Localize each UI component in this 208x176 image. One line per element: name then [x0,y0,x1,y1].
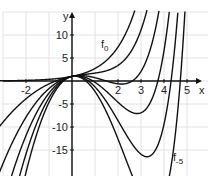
grid [3,12,208,176]
x-axis-label: x [199,84,205,96]
function-plot: -22345105-5-10-15 x y f0 f-5 [0,0,208,176]
curve-label-f0: f0 [101,38,109,53]
x-tick-label: 3 [138,84,144,96]
y-axis-label: y [63,10,69,22]
y-tick-label: -10 [52,121,68,133]
y-tick-label: 10 [56,29,68,41]
curve-f-1 [0,10,147,128]
x-tick-label: 4 [161,84,167,96]
curve-label-f-5: f-5 [173,151,184,166]
curve-f-3 [10,12,169,176]
x-tick-label: -2 [21,84,31,96]
y-tick-label: -5 [58,98,68,110]
y-tick-label: -15 [52,144,68,156]
x-tick-label: 5 [184,84,190,96]
y-axis-arrow-icon [69,12,75,18]
y-tick-label: 5 [62,52,68,64]
x-tick-label: 2 [115,84,121,96]
